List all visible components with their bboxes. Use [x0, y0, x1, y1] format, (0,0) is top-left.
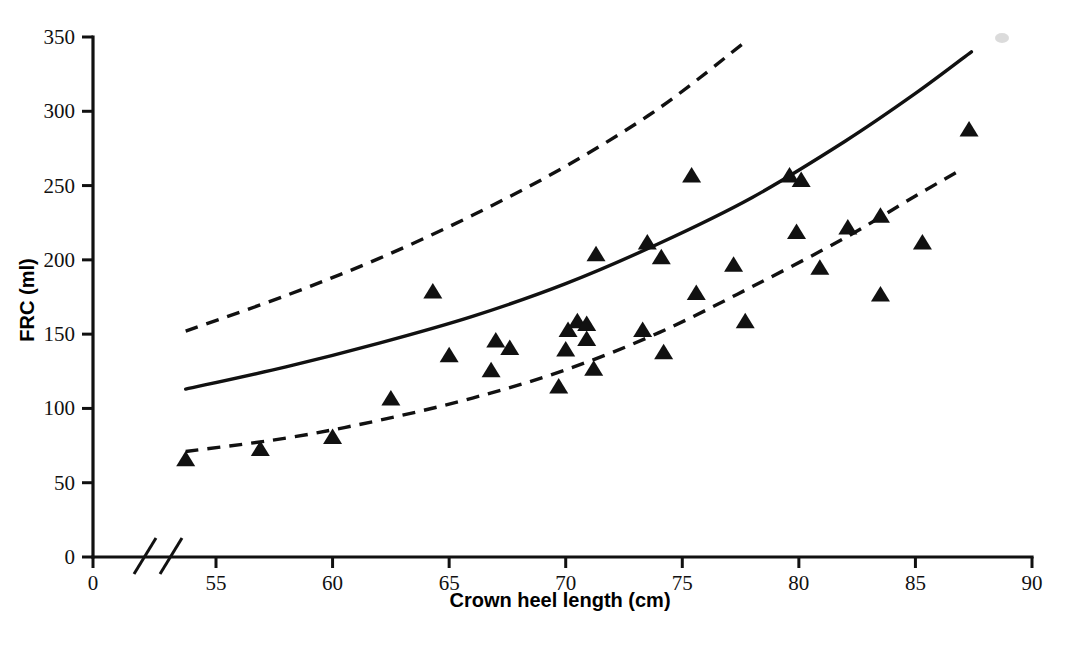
data-point-marker: [682, 167, 701, 183]
x-tick-label: 60: [322, 571, 343, 595]
figure-root: 05010015020025030035005560657075808590 F…: [0, 0, 1067, 647]
y-tick-label: 250: [44, 174, 76, 198]
data-point-marker: [787, 224, 806, 240]
scatter-plot-svg: 05010015020025030035005560657075808590 F…: [0, 0, 1067, 647]
y-axis-title: FRC (ml): [16, 258, 38, 341]
data-point-marker: [810, 259, 829, 275]
data-point-marker: [587, 246, 606, 262]
data-point-marker: [486, 332, 505, 348]
y-axis-title-group: FRC (ml): [16, 258, 38, 341]
data-point-marker: [556, 341, 575, 357]
data-point-marker: [871, 286, 890, 302]
data-point-marker: [654, 344, 673, 360]
data-point-marker: [482, 362, 501, 378]
data-point-marker: [381, 390, 400, 406]
y-tick-label: 0: [65, 545, 76, 569]
data-point-marker: [687, 284, 706, 300]
y-tick-label: 50: [54, 471, 75, 495]
data-point-marker: [736, 313, 755, 329]
x-tick-label: 80: [788, 571, 809, 595]
x-tick-label: 85: [905, 571, 926, 595]
y-tick-label: 200: [44, 248, 76, 272]
regression-curve: [186, 52, 972, 389]
data-point-marker: [549, 378, 568, 394]
confidence-limit-curve: [186, 40, 748, 331]
data-point-marker: [724, 256, 743, 272]
data-point-marker: [633, 322, 652, 338]
data-point-marker: [871, 207, 890, 223]
data-point-marker: [652, 249, 671, 265]
plot-generated-layer: 05010015020025030035005560657075808590: [44, 25, 1043, 595]
x-axis-title: Crown heel length (cm): [449, 589, 670, 611]
data-point-marker: [440, 347, 459, 363]
data-point-marker: [913, 234, 932, 250]
y-tick-label: 300: [44, 99, 76, 123]
data-point-marker: [577, 330, 596, 346]
data-point-marker: [176, 451, 195, 467]
x-tick-label: 55: [206, 571, 227, 595]
y-tick-label: 100: [44, 396, 76, 420]
y-tick-label: 350: [44, 25, 76, 49]
y-tick-label: 150: [44, 322, 76, 346]
x-axis-title-group: Crown heel length (cm): [449, 589, 670, 611]
data-point-marker: [638, 234, 657, 250]
scan-artifact-smudge: [995, 33, 1009, 43]
data-point-marker: [838, 219, 857, 235]
data-point-marker: [423, 283, 442, 299]
x-tick-label: 75: [672, 571, 693, 595]
x-tick-label: 0: [88, 571, 99, 595]
confidence-limit-curve: [186, 169, 962, 451]
data-point-marker: [584, 360, 603, 376]
data-point-marker: [960, 121, 979, 137]
x-tick-label: 90: [1022, 571, 1043, 595]
